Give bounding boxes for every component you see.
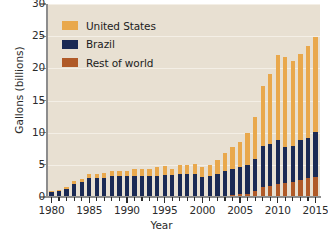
x-tick-mark-minor [262, 197, 263, 201]
bar-segment [147, 169, 151, 177]
x-tick-mark-minor [292, 197, 293, 201]
bar-group [155, 167, 159, 197]
bar-segment [72, 181, 76, 184]
x-tick-mark-minor [255, 197, 256, 201]
bar-segment [291, 61, 295, 146]
x-tick-mark-minor [247, 197, 248, 201]
x-tick-mark-major [239, 197, 240, 203]
x-axis-title: Year [0, 219, 323, 231]
bar-segment [268, 144, 272, 186]
bar-group [72, 181, 76, 197]
y-tick-label: 25 [32, 29, 45, 41]
bar-group [147, 169, 151, 197]
bar-group [253, 117, 257, 197]
bar-segment [313, 132, 317, 177]
bar-group [268, 74, 272, 197]
x-tick-mark-minor [96, 197, 97, 201]
bar-segment [80, 182, 84, 197]
bar-segment [193, 164, 197, 174]
x-tick-mark-minor [194, 197, 195, 201]
bar-segment [313, 37, 317, 132]
bar-segment [283, 57, 287, 146]
bar-group [110, 171, 114, 197]
bar-group [125, 171, 129, 197]
bar-segment [140, 169, 144, 176]
bar-segment [140, 176, 144, 197]
bar-segment [313, 177, 317, 197]
bar-segment [185, 165, 189, 174]
x-tick-mark-minor [209, 197, 210, 201]
bar-segment [208, 176, 212, 196]
bar-segment [230, 169, 234, 195]
x-tick-mark-minor [66, 197, 67, 201]
bar-group [313, 37, 317, 197]
x-tick-mark-minor [307, 197, 308, 201]
bar-segment [238, 167, 242, 194]
bar-segment [306, 178, 310, 197]
x-tick-mark-major [315, 197, 316, 203]
bar-group [170, 169, 174, 197]
chart-legend: United StatesBrazilRest of world [62, 18, 156, 74]
bar-segment [57, 190, 61, 191]
y-tick-label: 20 [32, 61, 45, 73]
bar-segment [253, 159, 257, 191]
bar-segment [268, 74, 272, 143]
bar-segment [132, 176, 136, 197]
y-tick-label: 0 [39, 190, 45, 202]
bar-segment [253, 117, 257, 159]
bar-segment [291, 182, 295, 197]
bar-segment [276, 140, 280, 184]
x-tick-mark-major [164, 197, 165, 203]
bar-group [132, 169, 136, 197]
bar-segment [125, 171, 129, 177]
bar-group [306, 46, 310, 197]
bar-group [208, 165, 212, 197]
x-tick-mark-major [89, 197, 90, 203]
x-tick-label: 1990 [114, 204, 140, 216]
x-tick-label: 1995 [152, 204, 178, 216]
bar-group [178, 165, 182, 197]
bar-segment [215, 160, 219, 174]
bar-group [238, 142, 242, 197]
x-tick-mark-minor [119, 197, 120, 201]
legend-swatch-icon [62, 58, 78, 67]
bar-segment [110, 171, 114, 176]
bar-group [215, 160, 219, 197]
bar-group [87, 174, 91, 197]
x-tick-label: 2000 [189, 204, 215, 216]
bar-segment [238, 142, 242, 167]
bar-segment [117, 171, 121, 177]
x-tick-label: 2015 [303, 204, 328, 216]
bar-segment [102, 173, 106, 178]
bar-segment [193, 174, 197, 197]
x-tick-label: 2005 [227, 204, 253, 216]
x-tick-mark-minor [141, 197, 142, 201]
y-axis-line [46, 4, 48, 198]
x-tick-mark-minor [270, 197, 271, 201]
bar-segment [261, 86, 265, 145]
bar-segment [298, 140, 302, 181]
bar-group [95, 174, 99, 197]
x-tick-mark-minor [187, 197, 188, 201]
bar-group [276, 55, 280, 197]
bar-segment [95, 174, 99, 179]
x-tick-mark-minor [232, 197, 233, 201]
x-tick-mark-major [51, 197, 52, 203]
bar-group [80, 179, 84, 197]
bar-segment [80, 179, 84, 182]
y-tick-label: 15 [32, 94, 45, 106]
bar-segment [291, 146, 295, 182]
bar-segment [64, 187, 68, 188]
legend-label: Rest of world [86, 57, 153, 69]
bar-segment [200, 167, 204, 177]
bar-segment [200, 177, 204, 197]
y-tick-label: 30 [32, 0, 45, 9]
x-tick-mark-major [277, 197, 278, 203]
bar-segment [223, 153, 227, 171]
bar-segment [102, 178, 106, 197]
bar-group [193, 164, 197, 197]
x-tick-mark-major [126, 197, 127, 203]
bar-segment [178, 165, 182, 173]
bar-group [230, 147, 234, 197]
